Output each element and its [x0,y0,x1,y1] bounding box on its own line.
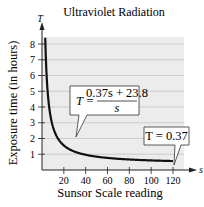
y-tick-label: 6 [30,70,35,81]
x-axis-var: s [199,164,203,175]
x-tick-label: 60 [103,175,113,186]
y-tick-label: 7 [30,54,35,65]
y-tick-label: 1 [30,149,35,160]
y-tick-label: 3 [30,117,35,128]
x-axis-label: Sunsor Scale reading [57,186,163,200]
y-axis-var: T [37,13,44,24]
y-tick-label: 8 [30,39,35,50]
callout-numerator: 0.37s + 23.8 [86,86,148,100]
y-tick-label: 2 [30,133,35,144]
chart: Ultraviolet Radiation T 12345678 s 20406… [0,0,204,207]
x-tick-label: 120 [166,175,181,186]
x-tick-label: 80 [124,175,134,186]
x-axis-arrow-icon [189,168,197,173]
x-tick-label: 20 [59,175,69,186]
x-tick-label: 100 [144,175,159,186]
y-tick-label: 4 [30,102,35,113]
asymptote-label: T = 0.37 [145,129,188,143]
y-axis-label: Exposure time (in hours) [6,41,20,166]
callout-denominator: s [115,101,120,115]
y-tick-label: 5 [30,86,35,97]
chart-title: Ultraviolet Radiation [63,5,165,19]
x-tick-label: 40 [81,175,91,186]
